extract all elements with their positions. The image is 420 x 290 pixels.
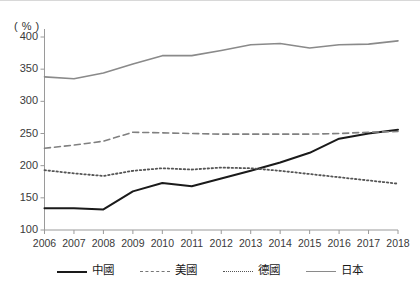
- legend-line-swatch-icon: [57, 266, 87, 276]
- x-axis-tick-label: 2013: [239, 237, 262, 249]
- legend-line-swatch-icon: [140, 266, 170, 276]
- y-axis-tick-label: 150: [8, 191, 38, 203]
- legend-item-label: 美國: [175, 265, 197, 277]
- x-axis-tick-label: 2009: [121, 237, 144, 249]
- x-axis-tick-label: 2012: [210, 237, 233, 249]
- legend-item[interactable]: 德國: [223, 265, 280, 277]
- legend-item[interactable]: 日本: [306, 265, 363, 277]
- legend-item[interactable]: 中國: [57, 265, 114, 277]
- y-axis-tick-label: 250: [8, 127, 38, 139]
- chart-figure: ( % ) 100150200250300350400 200620072008…: [0, 0, 420, 290]
- series-line: [45, 41, 399, 79]
- y-axis-tick-label: 400: [8, 30, 38, 42]
- legend-item[interactable]: 美國: [140, 265, 197, 277]
- y-axis-tick-label: 200: [8, 159, 38, 171]
- x-axis-tick-label: 2014: [268, 237, 291, 249]
- x-axis-tick-label: 2015: [298, 237, 321, 249]
- legend-line-swatch-icon: [306, 266, 336, 276]
- y-axis-tick-label: 300: [8, 94, 38, 106]
- series-line: [45, 132, 399, 149]
- x-axis-tick-label: 2007: [62, 237, 85, 249]
- legend-item-label: 中國: [92, 265, 114, 277]
- legend-item-label: 日本: [341, 265, 363, 277]
- x-axis-tick-label: 2010: [151, 237, 174, 249]
- y-axis-tick-label: 350: [8, 62, 38, 74]
- legend-item-label: 德國: [258, 265, 280, 277]
- x-axis-tick-label: 2017: [357, 237, 380, 249]
- x-axis-tick-label: 2011: [180, 237, 203, 249]
- x-axis-tick-label: 2018: [386, 237, 409, 249]
- chart-legend: 中國美國德國日本: [0, 259, 420, 283]
- x-axis-tick-label: 2006: [33, 237, 56, 249]
- legend-line-swatch-icon: [223, 266, 253, 276]
- x-axis-tick-label: 2016: [327, 237, 350, 249]
- series-line: [45, 168, 399, 184]
- y-axis-tick-label: 100: [8, 223, 38, 235]
- x-axis-tick-label: 2008: [92, 237, 115, 249]
